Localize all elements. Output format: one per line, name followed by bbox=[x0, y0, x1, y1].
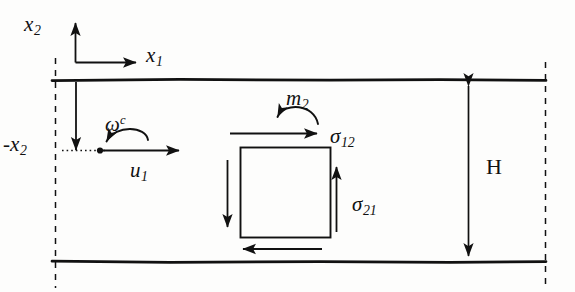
label-channel-height: H bbox=[486, 156, 502, 178]
label-m2-couple-stress: m2 bbox=[286, 88, 309, 109]
coordinate-axes bbox=[76, 23, 137, 63]
material-element-square bbox=[241, 148, 331, 238]
top-wall bbox=[52, 79, 546, 80]
axis-label-negative-x2: -x2 bbox=[3, 134, 27, 155]
label-omega-c: ωc bbox=[105, 114, 126, 135]
axis-label-x2: x2 bbox=[24, 14, 41, 35]
bottom-wall bbox=[52, 261, 546, 262]
axis-label-x1: x1 bbox=[146, 45, 163, 66]
label-sigma-12: σ12 bbox=[330, 126, 355, 147]
centerline-group bbox=[62, 147, 179, 153]
label-sigma-21: σ21 bbox=[352, 194, 377, 215]
figure-canvas: x2 x1 -x2 ωc u1 m2 σ12 σ21 H bbox=[0, 0, 575, 292]
element-shear-arrows bbox=[228, 134, 337, 250]
schematic-vector-layer bbox=[0, 0, 575, 292]
label-u1-velocity: u1 bbox=[130, 160, 148, 181]
